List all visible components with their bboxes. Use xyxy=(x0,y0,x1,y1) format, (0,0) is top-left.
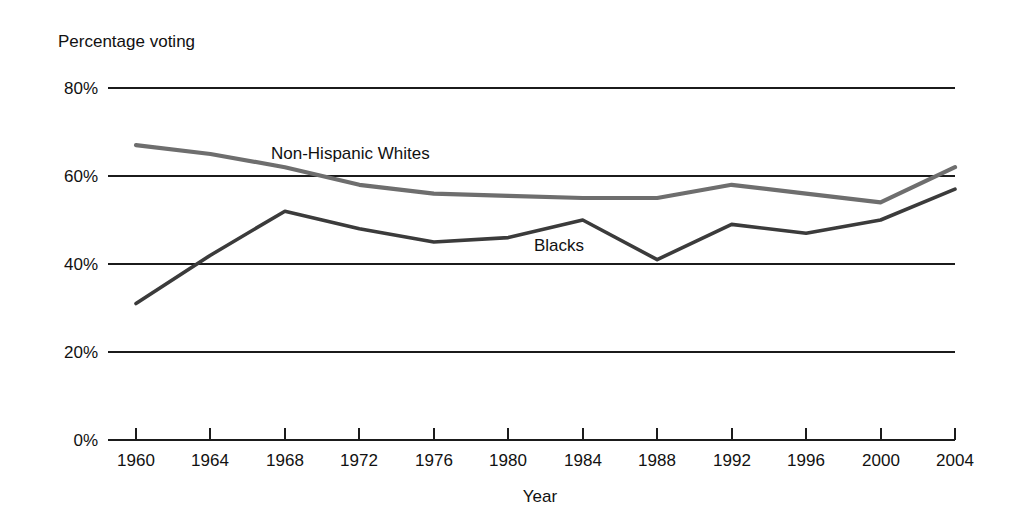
x-tick-label-1968: 1968 xyxy=(266,451,304,470)
series-annotation-blacks: Blacks xyxy=(534,236,584,255)
y-tick-label-20: 20% xyxy=(64,343,98,362)
series-annotation-non-hispanic-whites: Non-Hispanic Whites xyxy=(271,144,430,163)
x-tick-label-1960: 1960 xyxy=(117,451,155,470)
x-axis-title: Year xyxy=(523,487,558,506)
x-tick-label-1996: 1996 xyxy=(787,451,825,470)
chart-figure: Percentage voting 80% xyxy=(0,0,1025,523)
x-axis-ticks xyxy=(136,428,955,440)
x-tick-label-1964: 1964 xyxy=(191,451,229,470)
x-tick-label-1972: 1972 xyxy=(340,451,378,470)
y-tick-label-0: 0% xyxy=(73,431,98,450)
series-line-non-hispanic-whites xyxy=(136,145,955,202)
gridlines xyxy=(108,88,955,352)
x-tick-label-2004: 2004 xyxy=(936,451,974,470)
x-tick-label-1976: 1976 xyxy=(415,451,453,470)
x-tick-label-1984: 1984 xyxy=(564,451,602,470)
series-group xyxy=(136,145,955,303)
y-tick-label-60: 60% xyxy=(64,167,98,186)
x-tick-label-2000: 2000 xyxy=(862,451,900,470)
x-tick-label-1992: 1992 xyxy=(713,451,751,470)
x-axis-tick-labels: 1960 1964 1968 1972 1976 1980 1984 1988 … xyxy=(117,451,974,470)
x-tick-label-1980: 1980 xyxy=(489,451,527,470)
y-tick-label-40: 40% xyxy=(64,255,98,274)
y-axis-title: Percentage voting xyxy=(58,32,195,51)
x-tick-label-1988: 1988 xyxy=(638,451,676,470)
y-axis-tick-labels: 80% 60% 40% 20% 0% xyxy=(64,79,98,450)
y-tick-label-80: 80% xyxy=(64,79,98,98)
line-chart: Percentage voting 80% xyxy=(0,0,1025,523)
